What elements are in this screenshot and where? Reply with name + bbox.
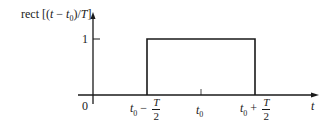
label-close: )/: [73, 7, 80, 21]
x-axis-arrow-icon: [311, 93, 319, 98]
frac-den: 2: [263, 110, 269, 122]
tick-op: −: [137, 101, 150, 115]
origin-label: 0: [82, 100, 88, 112]
x-tick-label-center: t0: [196, 104, 203, 119]
label-prefix: rect [(: [21, 7, 50, 21]
fraction: T2: [152, 97, 160, 122]
frac-num: T: [262, 97, 270, 110]
y-tick-label-1: 1: [82, 33, 88, 45]
x-tick-label-left: t0 − T2: [130, 97, 160, 122]
frac-num: T: [152, 97, 160, 110]
label-bracket: ]: [87, 7, 91, 21]
label-minus: −: [53, 7, 66, 21]
tick-op: +: [247, 101, 260, 115]
frac-den: 2: [153, 110, 159, 122]
rect-pulse: [147, 39, 255, 95]
x-tick-label-right: t0 + T2: [240, 97, 270, 122]
fraction: T2: [262, 97, 270, 122]
tick-sub: 0: [199, 110, 203, 119]
y-axis-label: rect [(t − t0)/T]: [21, 8, 91, 23]
x-axis-label: t: [311, 100, 314, 112]
